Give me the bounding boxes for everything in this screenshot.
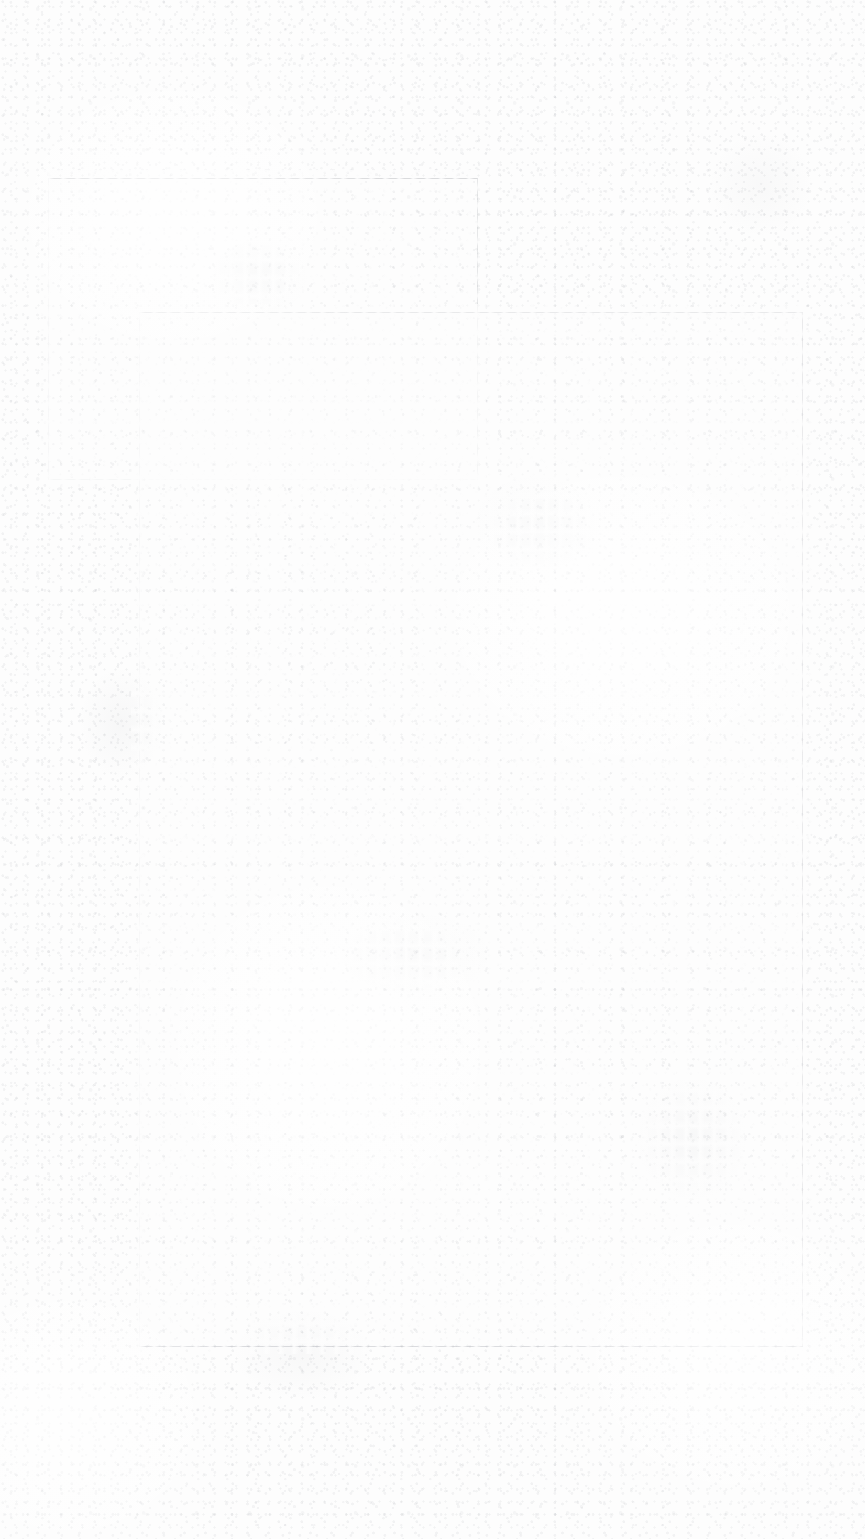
- document-condition-note: No legible characters survive on this pa…: [0, 0, 1, 1]
- faded-frame-main: [139, 312, 803, 1347]
- document-legible-text: [0, 0, 1, 1]
- scanned-page: No legible characters survive on this pa…: [0, 0, 865, 1539]
